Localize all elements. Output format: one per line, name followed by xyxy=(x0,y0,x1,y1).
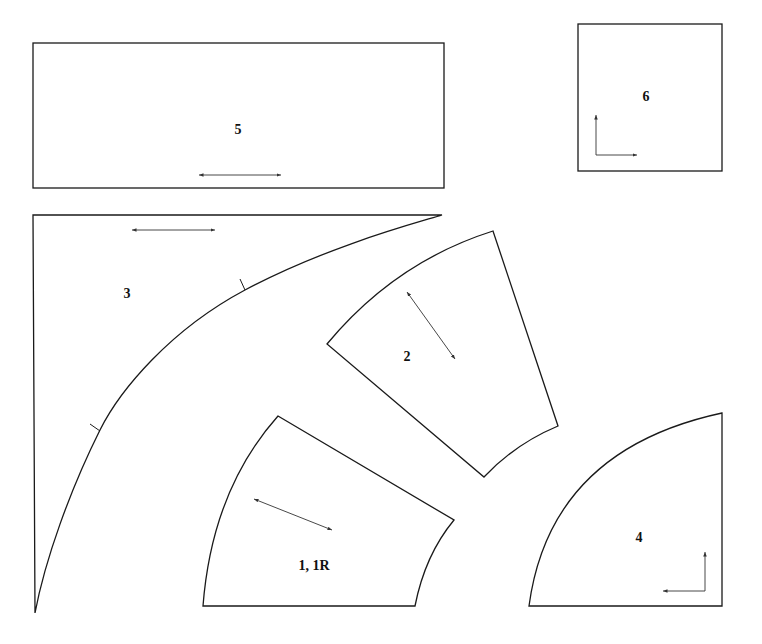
piece-label-3: 3 xyxy=(124,286,131,302)
piece-label-1-1R: 1, 1R xyxy=(298,558,329,574)
piece-2 xyxy=(327,231,558,477)
piece-6 xyxy=(578,24,722,171)
piece-label-6: 6 xyxy=(643,89,650,105)
piece-label-5: 5 xyxy=(235,122,242,138)
piece-5 xyxy=(33,43,444,188)
piece-4 xyxy=(529,413,722,606)
piece-label-2: 2 xyxy=(404,349,411,365)
piece-1-1R xyxy=(203,416,454,606)
piece-label-4: 4 xyxy=(636,530,643,546)
